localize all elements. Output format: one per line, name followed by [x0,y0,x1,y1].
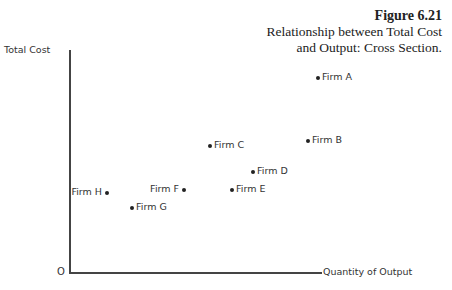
figure-number: Figure 6.21 [267,8,442,24]
y-axis [69,50,71,273]
data-point [306,139,310,143]
data-point-label: Firm G [136,201,167,212]
x-axis [69,272,322,274]
data-point [251,170,255,174]
data-point [208,144,212,148]
x-axis-label: Quantity of Output [323,266,412,277]
data-point [230,188,234,192]
data-point [182,188,186,192]
data-point-label: Firm F [150,183,179,194]
data-point [105,191,109,195]
data-point [316,76,320,80]
data-point-label: Firm D [257,165,288,176]
caption-line-1: Relationship between Total Cost [267,24,442,40]
data-point-label: Firm H [71,186,102,197]
data-point-label: Firm E [236,183,265,194]
origin-label: O [57,266,65,277]
data-point [130,206,134,210]
caption-line-2: and Output: Cross Section. [267,40,442,56]
y-axis-label: Total Cost [4,44,50,55]
data-point-label: Firm C [214,139,244,150]
figure-caption: Figure 6.21 Relationship between Total C… [267,8,442,56]
data-point-label: Firm A [322,71,352,82]
data-point-label: Firm B [312,134,342,145]
